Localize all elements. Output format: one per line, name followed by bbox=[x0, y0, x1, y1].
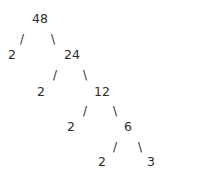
edge-6-3: \ bbox=[138, 141, 142, 153]
node-12: 12 bbox=[94, 85, 110, 99]
node-3: 3 bbox=[147, 155, 155, 169]
edge-48-2: / bbox=[20, 33, 24, 45]
node-48: 48 bbox=[32, 12, 48, 26]
node-6: 6 bbox=[124, 120, 132, 134]
node-2-leaf-2: 2 bbox=[37, 85, 45, 99]
edge-12-2: / bbox=[83, 105, 87, 117]
node-2-leaf-4: 2 bbox=[98, 155, 106, 169]
edge-24-12: \ bbox=[83, 69, 87, 81]
edge-6-2: / bbox=[113, 141, 117, 153]
node-2-leaf-3: 2 bbox=[67, 120, 75, 134]
edge-12-6: \ bbox=[113, 105, 117, 117]
factor-tree: 48 / \ 2 24 / \ 2 12 / \ 2 6 / \ 2 3 bbox=[0, 0, 199, 172]
edge-48-24: \ bbox=[51, 33, 55, 45]
node-24: 24 bbox=[64, 48, 80, 62]
node-2-leaf-1: 2 bbox=[8, 48, 16, 62]
edge-24-2: / bbox=[53, 69, 57, 81]
